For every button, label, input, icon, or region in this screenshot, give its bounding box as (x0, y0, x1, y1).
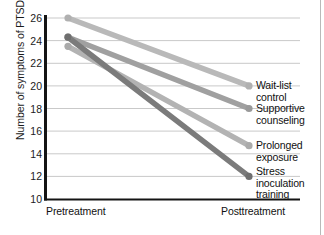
legend-label-line-3: training (256, 189, 305, 201)
legend-label-line-1: Prolonged (256, 140, 303, 152)
marker-wait-list-pre (64, 14, 71, 21)
ptsd-symptoms-line-chart: Number of symptoms of PTSD 26 24 22 20 1… (0, 0, 324, 235)
legend-item-prolonged-exposure: Prolonged exposure (256, 140, 303, 163)
legend-label-line-1: Stress (256, 166, 305, 178)
marker-wait-list-post (245, 82, 252, 89)
marker-supportive-post (245, 105, 252, 112)
legend-label-line-1: Supportive (256, 103, 305, 115)
legend-label-line-2: exposure (256, 152, 303, 164)
marker-stress-pre (64, 34, 71, 41)
series-lines (68, 18, 249, 176)
marker-stress-post (245, 173, 252, 180)
legend-item-wait-list-control: Wait-list control (256, 80, 292, 103)
legend-label-line-2: counseling (256, 115, 305, 127)
legend-item-stress-inoculation-training: Stress inoculation training (256, 166, 305, 201)
x-tick-pretreatment: Pretreatment (46, 205, 106, 217)
series-line-stress-inoculation-training (68, 37, 249, 176)
marker-prolonged-pre (64, 43, 71, 50)
legend-item-supportive-counseling: Supportive counseling (256, 103, 305, 126)
legend-label-line-1: Wait-list (256, 80, 292, 92)
marker-prolonged-post (245, 142, 252, 149)
x-tick-posttreatment: Posttreatment (221, 205, 285, 217)
